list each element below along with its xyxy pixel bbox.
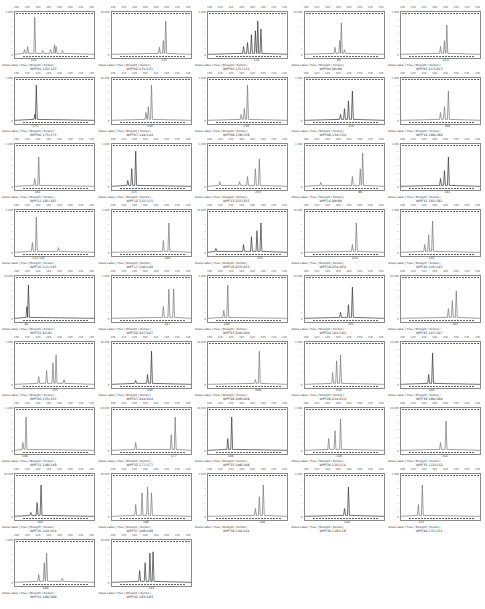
plot-area — [400, 473, 481, 521]
plot-area — [304, 275, 385, 323]
size-ruler: 100120140160180200220240 — [207, 138, 287, 142]
y-axis-ticks: 2,000—————0 — [2, 77, 13, 123]
allele-call: 108 — [228, 454, 234, 458]
y-axis-ticks: 1,000—————0 — [388, 473, 399, 519]
y-axis-ticks: 1,000—————0 — [99, 209, 110, 255]
sample-label: WPF01.123/123 — [30, 67, 57, 71]
chromatogram-panel: 10012014016018020022024010,000—————0180A… — [388, 336, 482, 402]
sample-label: WPF18.255/255 — [223, 265, 250, 269]
sample-label: WPF26.155/155 — [30, 397, 57, 401]
y-axis-ticks: 10,000—————0 — [292, 209, 303, 255]
y-axis-ticks: 10,000—————0 — [195, 209, 206, 255]
size-ruler: 100120140160180200220240 — [304, 270, 384, 274]
plot-area — [14, 143, 95, 191]
sample-label: WPF40.131/131 — [416, 529, 443, 533]
sample-label: WPF30.180/180 — [416, 397, 443, 401]
y-axis-ticks: 1,000—————0 — [195, 143, 206, 189]
size-ruler: 100120140160180200220240 — [14, 336, 94, 340]
size-ruler: 100120140160180200220240 — [111, 72, 191, 76]
size-ruler: 100120140160180200220240 — [14, 72, 94, 76]
y-axis-ticks: 1,000—————0 — [388, 11, 399, 57]
y-axis-ticks: 1,000—————0 — [292, 473, 303, 519]
sample-label: WPF31.148/148 — [30, 463, 57, 467]
plot-area — [111, 275, 192, 323]
allele-call: 108 — [143, 520, 149, 524]
sample-label: WPF09.134/134 — [320, 133, 347, 137]
size-ruler: 100120140160180200220240 — [304, 204, 384, 208]
chromatogram-panel: 1001201401601802002202401,000—————0181Al… — [388, 138, 482, 204]
sample-label: WPF03.131/131 — [223, 67, 250, 71]
chromatogram-panel: 1001201401601802002202401,000—————0240Al… — [195, 270, 289, 336]
allele-call: 116 — [336, 454, 342, 458]
sample-label: WPF41.180/180 — [30, 595, 57, 599]
chromatogram-panel: 1001201401601802002202402,000—————0181Al… — [2, 138, 96, 204]
chromatogram-panel: 1001201401601802002202401,000—————0144Al… — [195, 468, 289, 534]
plot-area — [304, 143, 385, 191]
plot-area — [207, 407, 288, 455]
trace-line — [15, 276, 94, 322]
trace-line — [208, 342, 287, 388]
chromatogram-panel: 1001201401601802002202402,000—————0155Al… — [2, 336, 96, 402]
trace-line — [15, 12, 94, 58]
allele-call: 254 — [352, 256, 358, 260]
trace-line — [15, 210, 94, 256]
chromatogram-panel: 10012014016018020022024010,000—————0255A… — [195, 204, 289, 270]
allele-call: 112 — [442, 454, 448, 458]
allele-call: 144 — [147, 124, 153, 128]
chromatogram-panel: 10012014016018020022024020,000—————090Al… — [292, 6, 386, 72]
y-axis-ticks: 20,000—————0 — [195, 341, 206, 387]
size-ruler: 100120140160180200220240 — [14, 534, 94, 538]
trace-line — [15, 342, 94, 388]
size-ruler: 100120140160180200220240 — [14, 270, 94, 274]
y-axis-ticks: 10,000—————0 — [99, 11, 110, 57]
chromatogram-panel: 1001201401601802002202401,000—————0131Al… — [388, 468, 482, 534]
allele-call: 175 — [32, 124, 38, 128]
trace-line — [208, 474, 287, 520]
sample-label: WPF10.188/188 — [416, 133, 443, 137]
trace-line — [305, 474, 384, 520]
trace-line — [112, 78, 191, 124]
y-axis-ticks: 20,000—————0 — [99, 77, 110, 123]
allele-call: 90 — [337, 58, 341, 62]
sample-label: WPF27.244/244 — [127, 397, 154, 401]
y-axis-ticks: 1,000—————0 — [195, 11, 206, 57]
chromatogram-panel: 1001201401601802002202401,000—————099All… — [292, 138, 386, 204]
sample-label: WPF02.131/131 — [127, 67, 154, 71]
allele-call: 180 — [429, 388, 435, 392]
chromatogram-panel: 10012014016018020022024020,000—————0209A… — [195, 336, 289, 402]
chromatogram-panel: 1001201401601802002202401,000—————0255Al… — [195, 138, 289, 204]
sample-label: WPF42.183/183 — [127, 595, 154, 599]
plot-area — [111, 539, 192, 587]
allele-call: 158 — [244, 124, 250, 128]
size-ruler: 100120140160180200220240 — [111, 336, 191, 340]
size-ruler: 100120140160180200220240 — [400, 72, 480, 76]
chromatogram-panel: 10012014016018020022024010,000—————0131A… — [99, 6, 193, 72]
sample-label: WPF35.112/112 — [416, 463, 443, 467]
sample-label: WPF05.213/213 — [416, 67, 443, 71]
sample-label: WPF07.144/144 — [127, 133, 154, 137]
plot-area — [304, 407, 385, 455]
trace-line — [305, 12, 384, 58]
sample-label: WPF34.116/116 — [320, 463, 347, 467]
plot-area — [111, 407, 192, 455]
sample-label: WPF33.108/108 — [223, 463, 250, 467]
plot-area — [207, 341, 288, 389]
trace-line — [305, 408, 384, 454]
trace-line — [401, 474, 480, 520]
plot-area — [111, 77, 192, 125]
allele-call: 181 — [444, 190, 450, 194]
allele-call: 240 — [224, 322, 230, 326]
size-ruler: 100120140160180200220240 — [111, 204, 191, 208]
plot-area — [400, 11, 481, 59]
sample-label: WPF13.255/255 — [223, 199, 250, 203]
size-ruler: 100120140160180200220240 — [207, 468, 287, 472]
plot-area — [14, 341, 95, 389]
sample-label: WPF25.107/107 — [416, 331, 443, 335]
allele-call: 255 — [257, 256, 263, 260]
chromatogram-panel: 1001201401601802002202401,000—————0188Al… — [388, 72, 482, 138]
size-ruler: 100120140160180200220240 — [111, 6, 191, 10]
allele-call: 244 — [147, 388, 153, 392]
sample-label: WPF14.99/99 — [320, 199, 342, 203]
plot-area — [111, 143, 192, 191]
plot-area — [207, 209, 288, 257]
